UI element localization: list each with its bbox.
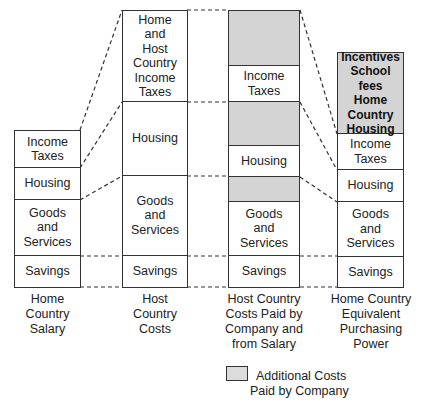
legend-line: Paid by Company: [250, 384, 349, 399]
segment-additional-cost: [228, 10, 300, 66]
segment-savings: Savings: [337, 257, 404, 288]
segment-income-taxes: Income Taxes: [337, 134, 404, 170]
legend-label: Additional Costs Paid by Company: [256, 369, 349, 399]
caption-line: Equivalent: [325, 307, 417, 322]
caption-line: from Salary: [218, 337, 310, 352]
caption-line: Country: [112, 307, 198, 322]
segment-goods-services: Goods and Services: [337, 202, 404, 257]
segment-goods-services: Goods and Services: [14, 200, 81, 256]
caption-line: Home Country: [325, 292, 417, 307]
segment-label: Goods and Services: [240, 207, 288, 251]
caption-line: Host Country: [218, 292, 310, 307]
segment-label: Goods and Services: [347, 207, 395, 251]
segment-label: Housing: [25, 176, 71, 191]
segment-label: Housing: [241, 154, 287, 169]
segment-housing: Housing: [122, 102, 188, 176]
segment-goods-services: Goods and Services: [122, 176, 188, 256]
segment-label: Savings: [25, 264, 69, 279]
segment-housing: Housing: [14, 168, 81, 200]
segment-housing: Housing: [228, 146, 300, 177]
segment-label: Housing: [348, 178, 394, 193]
caption-home-country-salary: Home Country Salary: [4, 292, 91, 337]
legend-swatch: [226, 366, 248, 381]
segment-housing: Housing: [337, 170, 404, 202]
segment-savings: Savings: [122, 256, 188, 288]
caption-home-equivalent-purchasing-power: Home Country Equivalent Purchasing Power: [325, 292, 417, 352]
segment-label: Income Taxes: [27, 135, 68, 164]
caption-line: Company and: [218, 322, 310, 337]
segment-label: Incentives School fees Home Country Hous…: [338, 50, 403, 137]
segment-label: Savings: [348, 265, 392, 280]
segment-label: Income Taxes: [350, 137, 391, 166]
column-home-equivalent-purchasing-power: Incentives School fees Home Country Hous…: [337, 52, 404, 288]
caption-host-country-costs: Host Country Costs: [112, 292, 198, 337]
legend-line: Additional Costs: [256, 369, 349, 384]
segment-goods-services: Goods and Services: [228, 202, 300, 256]
caption-line: Purchasing: [325, 322, 417, 337]
segment-additional-cost: Incentives School fees Home Country Hous…: [337, 52, 404, 134]
caption-line: Costs Paid by: [218, 307, 310, 322]
caption-line: Costs: [112, 322, 198, 337]
segment-savings: Savings: [228, 256, 300, 288]
segment-label: Home and Host Country Income Taxes: [133, 13, 177, 100]
segment-savings: Savings: [14, 256, 81, 288]
segment-income-taxes: Income Taxes: [14, 130, 81, 168]
segment-label: Savings: [242, 264, 286, 279]
segment-label: Income Taxes: [244, 69, 285, 98]
caption-line: Salary: [4, 322, 91, 337]
segment-label: Savings: [133, 264, 177, 279]
segment-income-taxes: Income Taxes: [228, 66, 300, 102]
segment-additional-cost: [228, 102, 300, 146]
column-host-costs-paid: Income Taxes Housing Goods and Services …: [228, 10, 300, 288]
caption-line: Host: [112, 292, 198, 307]
column-home-country-salary: Income Taxes Housing Goods and Services …: [14, 130, 81, 288]
segment-label: Goods and Services: [131, 194, 179, 238]
segment-label: Housing: [132, 131, 178, 146]
segment-additional-cost: [228, 177, 300, 202]
segment-label: Goods and Services: [24, 206, 72, 250]
caption-host-costs-paid: Host Country Costs Paid by Company and f…: [218, 292, 310, 352]
column-host-country-costs: Home and Host Country Income Taxes Housi…: [122, 10, 188, 288]
caption-line: Home: [4, 292, 91, 307]
segment-income-taxes: Home and Host Country Income Taxes: [122, 10, 188, 102]
caption-line: Power: [325, 337, 417, 352]
caption-line: Country: [4, 307, 91, 322]
